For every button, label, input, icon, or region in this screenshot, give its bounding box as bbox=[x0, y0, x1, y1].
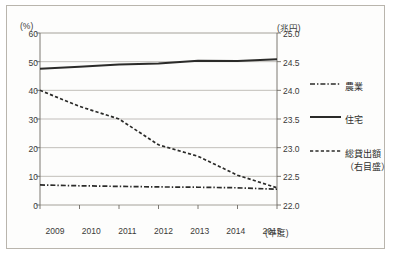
chart-plot bbox=[0, 0, 393, 257]
